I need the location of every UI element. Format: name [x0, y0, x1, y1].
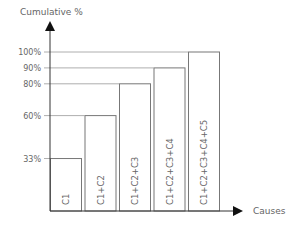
bars: C1C1+C2C1+C2+C3C1+C2+C3+C4C1+C2+C3+C4+C5 — [51, 52, 220, 211]
y-axis-title: Cumulative % — [20, 7, 83, 17]
y-tick-label: 100% — [18, 48, 41, 57]
bar-label: C1 — [61, 194, 71, 205]
bar-label: C1+C2 — [96, 175, 106, 205]
bar-label: C1+C2+C3 — [130, 157, 140, 205]
y-axis-arrow-icon — [45, 21, 55, 31]
x-axis-title: Causes — [253, 206, 286, 216]
y-tick-label: 80% — [23, 80, 41, 89]
y-tick-label: 33% — [23, 155, 41, 164]
y-tick-label: 90% — [23, 64, 41, 73]
x-axis-arrow-icon — [233, 206, 243, 216]
pareto-chart: Cumulative % 33%60%80%90%100% C1C1+C2C1+… — [0, 0, 295, 225]
bar-label: C1+C2+C3+C4 — [165, 138, 175, 205]
bar-label: C1+C2+C3+C4+C5 — [199, 120, 209, 205]
y-tick-label: 60% — [23, 112, 41, 121]
